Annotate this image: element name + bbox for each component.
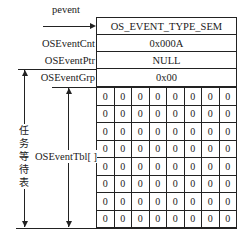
grid-cell: 0 (202, 158, 220, 176)
grid-cell: 0 (150, 158, 168, 176)
grid-cell: 0 (115, 106, 133, 124)
table-top-line (52, 87, 96, 88)
grid-cell: 0 (97, 176, 115, 194)
grid-cell: 0 (150, 88, 168, 106)
event-tbl-label: OSEventTbl[ ] (35, 150, 97, 163)
event-ptr-label: OSEventPtr (45, 56, 95, 67)
grid-cell: 0 (220, 106, 238, 124)
pevent-arrow (43, 26, 93, 27)
grid-cell: 0 (220, 88, 238, 106)
wait-list-label: 任 务 等 待 表 (18, 124, 30, 189)
grid-cell: 0 (115, 193, 133, 211)
grid-cell: 0 (220, 158, 238, 176)
grid-cell: 0 (115, 176, 133, 194)
event-type-cell: OS_EVENT_TYPE_SEM (96, 17, 237, 35)
grid-cell: 0 (150, 176, 168, 194)
grid-cell: 0 (167, 158, 185, 176)
grid-cell: 0 (150, 193, 168, 211)
grid-cell: 0 (115, 141, 133, 159)
wait-list-top-line (18, 69, 96, 70)
pevent-label: pevent (52, 5, 80, 16)
grid-cell: 0 (115, 123, 133, 141)
grid-cell: 0 (167, 106, 185, 124)
grid-cell: 0 (132, 141, 150, 159)
grid-cell: 0 (185, 193, 203, 211)
event-grp-cell: 0x00 (96, 69, 237, 87)
grid-cell: 0 (167, 211, 185, 229)
grid-cell: 0 (202, 88, 220, 106)
grid-cell: 0 (132, 106, 150, 124)
grid-cell: 0 (220, 141, 238, 159)
grid-cell: 0 (202, 123, 220, 141)
grid-cell: 0 (185, 158, 203, 176)
event-grp-value: 0x00 (156, 72, 177, 83)
grid-cell: 0 (97, 106, 115, 124)
grid-cell: 0 (185, 106, 203, 124)
event-ptr-cell: NULL (96, 52, 237, 69)
grid-cell: 0 (115, 211, 133, 229)
grid-cell: 0 (97, 123, 115, 141)
event-grp-label: OSEventGrp (41, 73, 95, 84)
grid-cell: 0 (202, 193, 220, 211)
grid-cell: 0 (97, 88, 115, 106)
grid-cell: 0 (185, 123, 203, 141)
event-cnt-cell: 0x000A (96, 35, 237, 52)
grid-cell: 0 (185, 88, 203, 106)
grid-cell: 0 (97, 158, 115, 176)
grid-cell: 0 (132, 88, 150, 106)
grid-cell: 0 (150, 123, 168, 141)
event-type-value: OS_EVENT_TYPE_SEM (111, 21, 222, 32)
grid-cell: 0 (185, 211, 203, 229)
grid-cell: 0 (97, 141, 115, 159)
grid-cell: 0 (220, 123, 238, 141)
grid-cell: 0 (167, 176, 185, 194)
grid-cell: 0 (220, 193, 238, 211)
grid-cell: 0 (132, 158, 150, 176)
event-cnt-value: 0x000A (150, 38, 184, 49)
event-cnt-label: OSEventCnt (42, 39, 95, 50)
grid-cell: 0 (167, 193, 185, 211)
grid-cell: 0 (185, 141, 203, 159)
grid-cell: 0 (202, 106, 220, 124)
grid-cell: 0 (167, 141, 185, 159)
grid-cell: 0 (167, 123, 185, 141)
grid-cell: 0 (220, 176, 238, 194)
grid-cell: 0 (132, 123, 150, 141)
grid-cell: 0 (202, 176, 220, 194)
grid-cell: 0 (202, 141, 220, 159)
grid-cell: 0 (167, 88, 185, 106)
grid-cell: 0 (97, 211, 115, 229)
grid-cell: 0 (220, 211, 238, 229)
event-wait-table: 0 0 0 0 0 0 0 0 0 0 0 0 0 0 0 0 0 0 0 0 … (96, 87, 237, 228)
grid-cell: 0 (185, 176, 203, 194)
grid-cell: 0 (150, 106, 168, 124)
grid-cell: 0 (132, 211, 150, 229)
grid-cell: 0 (150, 211, 168, 229)
grid-cell: 0 (115, 88, 133, 106)
grid-cell: 0 (150, 141, 168, 159)
grid-cell: 0 (115, 158, 133, 176)
grid-cell: 0 (132, 193, 150, 211)
grid-cell: 0 (202, 211, 220, 229)
bottom-line (16, 228, 237, 229)
grid-cell: 0 (132, 176, 150, 194)
event-ptr-value: NULL (153, 55, 181, 66)
grid-cell: 0 (97, 193, 115, 211)
